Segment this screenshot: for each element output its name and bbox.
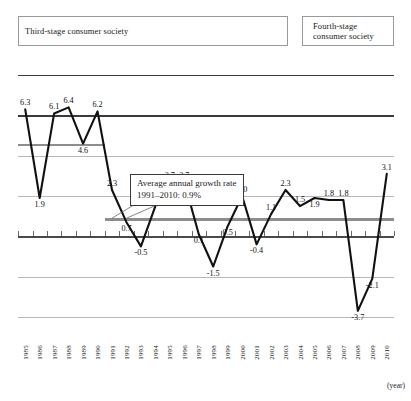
x-axis-label: 1989 — [80, 345, 88, 360]
x-axis-label: 1985 — [22, 345, 30, 360]
x-axis-label: 2008 — [354, 345, 362, 360]
x-axis-label: 2007 — [340, 345, 348, 360]
x-axis-label: 1999 — [224, 345, 232, 360]
callout-line-2: 1991–2010: 0.9% — [137, 190, 237, 202]
x-axis-label: 1991 — [109, 345, 117, 360]
x-axis-label: 1995 — [166, 345, 174, 360]
x-axis-labels: 1985198619871988198919901991199219931994… — [18, 345, 394, 385]
x-axis-label: 1988 — [65, 345, 73, 360]
x-axis-unit-label: (year) — [387, 381, 405, 390]
x-axis-label: 1987 — [51, 345, 59, 360]
x-axis-label: 2006 — [325, 345, 333, 360]
x-axis-label: 2003 — [282, 345, 290, 360]
x-axis-label: 1986 — [36, 345, 44, 360]
x-axis-label: 2005 — [311, 345, 319, 360]
x-axis-label: 2000 — [239, 345, 247, 360]
x-axis-label: 2002 — [268, 345, 276, 360]
x-axis-label: 1998 — [210, 345, 218, 360]
x-axis-label: 1997 — [195, 345, 203, 360]
x-axis-label: 1993 — [137, 345, 145, 360]
x-axis-label: 1990 — [94, 345, 102, 360]
x-axis-label: 1996 — [181, 345, 189, 360]
x-axis-label: 2009 — [369, 345, 377, 360]
x-axis-label: 2001 — [253, 345, 261, 360]
x-axis-label: 2010 — [383, 345, 391, 360]
callout-line-1: Average annual growth rate — [137, 178, 237, 190]
x-axis-label: 1994 — [152, 345, 160, 360]
x-axis-label: 1992 — [123, 345, 131, 360]
x-axis-label: 2004 — [297, 345, 305, 360]
figure-root: Third-stage consumer society Fourth-stag… — [0, 0, 411, 401]
average-growth-callout: Average annual growth rate 1991–2010: 0.… — [130, 174, 244, 206]
